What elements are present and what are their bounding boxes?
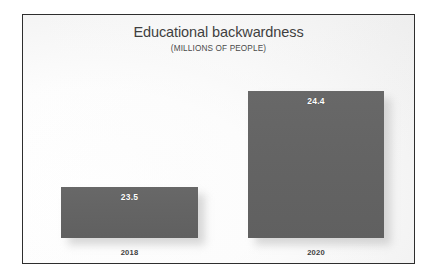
chart-title: Educational backwardness [23, 24, 414, 41]
bar-value-label: 24.4 [248, 96, 384, 106]
bar-value-label: 23.5 [61, 192, 198, 202]
slide-canvas: Educational backwardness (MILLIONS OF PE… [0, 0, 438, 279]
bar-2018[interactable]: 23.5 [61, 187, 198, 238]
bar-rect [248, 91, 384, 238]
category-label: 2018 [61, 248, 198, 257]
chart-title-block: Educational backwardness (MILLIONS OF PE… [23, 24, 414, 54]
bar-2020[interactable]: 24.4 [248, 91, 384, 238]
chart-subtitle: (MILLIONS OF PEOPLE) [23, 43, 414, 54]
chart-frame: Educational backwardness (MILLIONS OF PE… [22, 14, 415, 264]
category-label: 2020 [248, 248, 384, 257]
